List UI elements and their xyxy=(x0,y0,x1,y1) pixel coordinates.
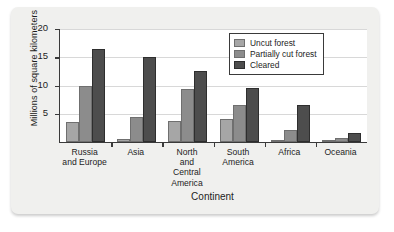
legend-swatch-icon xyxy=(234,61,245,69)
x-axis-label: Oceania xyxy=(315,147,366,188)
bar xyxy=(168,121,181,142)
bar xyxy=(194,71,207,142)
y-tick-label: 10 xyxy=(37,79,48,90)
bar xyxy=(130,117,143,142)
bar xyxy=(348,133,361,142)
bar xyxy=(322,140,335,142)
x-axis-label: Russiaand Europe xyxy=(59,147,110,188)
bar xyxy=(271,140,284,142)
legend-swatch-icon xyxy=(234,50,245,58)
legend: Uncut forestPartially cut forestCleared xyxy=(229,33,324,75)
bar xyxy=(66,122,79,142)
bar xyxy=(297,105,310,142)
bar xyxy=(220,119,233,142)
y-tick-label: 5 xyxy=(43,107,48,118)
bar-group xyxy=(60,29,111,142)
x-axis-label: Africa xyxy=(264,147,315,188)
bar xyxy=(284,130,297,142)
legend-item: Partially cut forest xyxy=(234,49,317,59)
bar-group xyxy=(111,29,162,142)
bar xyxy=(79,86,92,143)
legend-item: Uncut forest xyxy=(234,38,317,48)
chart-card: Millions of square kilometers 5101520 Ru… xyxy=(11,7,379,214)
bar xyxy=(246,88,259,142)
bar xyxy=(92,49,105,142)
legend-label: Partially cut forest xyxy=(250,49,317,59)
legend-item: Cleared xyxy=(234,60,317,70)
legend-label: Cleared xyxy=(250,60,279,70)
bar-group xyxy=(162,29,213,142)
bar xyxy=(117,139,130,142)
y-tick-label: 15 xyxy=(37,50,48,61)
x-axis-label: SouthAmerica xyxy=(213,147,264,188)
y-tick-label: 20 xyxy=(37,22,48,33)
x-axis-title: Continent xyxy=(59,191,366,202)
bar xyxy=(181,89,194,142)
x-axis-labels: Russiaand EuropeAsiaNorthandCentralAmeri… xyxy=(59,147,366,188)
x-axis-label: Asia xyxy=(110,147,161,188)
legend-swatch-icon xyxy=(234,39,245,47)
bar xyxy=(233,105,246,142)
bar xyxy=(143,57,156,142)
x-axis-label: NorthandCentralAmerica xyxy=(161,147,212,188)
legend-label: Uncut forest xyxy=(250,38,295,48)
bar xyxy=(335,138,348,142)
